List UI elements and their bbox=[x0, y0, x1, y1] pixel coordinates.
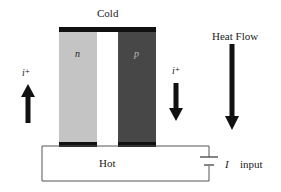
heat-flow-label: Heat Flow bbox=[212, 31, 258, 42]
current-label-left: i⁺ bbox=[22, 68, 30, 78]
hot-label: Hot bbox=[99, 158, 116, 169]
heat-flow-arrow-icon bbox=[224, 44, 240, 130]
current-symbol: I bbox=[225, 159, 229, 170]
battery-icon bbox=[200, 155, 218, 167]
up-arrow-icon bbox=[20, 84, 36, 124]
input-label: input bbox=[240, 159, 263, 170]
down-arrow-icon bbox=[168, 83, 184, 121]
current-label-right: i⁺ bbox=[172, 66, 180, 76]
